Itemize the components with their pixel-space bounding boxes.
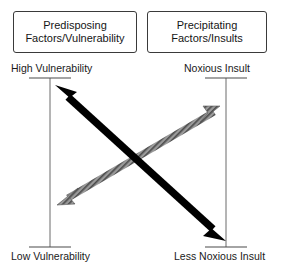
vulnerability-axis-line — [29, 78, 71, 247]
diagram-canvas: Predisposing Factors/Vulnerability Preci… — [0, 0, 284, 274]
vulnerability-arrow — [55, 85, 226, 241]
insult-axis-line — [205, 78, 247, 247]
insult-arrow — [57, 106, 220, 205]
arrows-and-axes — [0, 0, 284, 274]
